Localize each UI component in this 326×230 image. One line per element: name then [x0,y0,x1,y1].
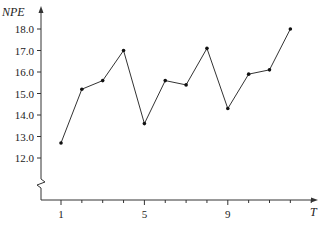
data-point [226,107,230,111]
y-axis-arrow-icon [39,6,44,13]
y-axis-title: NPE [1,5,25,19]
x-tick-label: 1 [58,208,64,220]
line-chart: NPE 12.013.014.015.016.017.018.0 T 159 [0,0,326,230]
x-tick-label: 9 [225,208,231,220]
y-tick-label: 18.0 [15,23,35,35]
data-point [268,68,272,72]
y-tick-label: 15.0 [15,88,35,100]
axis-break-icon [37,179,45,188]
x-axis: T 159 [41,198,318,221]
data-point [80,87,84,91]
y-tick-label: 14.0 [15,109,35,121]
x-tick-label: 5 [142,208,148,220]
y-tick-label: 16.0 [15,66,35,78]
y-tick-label: 12.0 [15,152,35,164]
y-tick-label: 13.0 [15,131,35,143]
series-line [61,29,290,143]
y-axis: NPE 12.013.014.015.016.017.018.0 [1,5,45,200]
data-point [59,141,63,145]
x-axis-title: T [310,205,318,219]
data-point [163,79,167,83]
y-ticks: 12.013.014.015.016.017.018.0 [15,23,41,164]
data-point [205,47,209,51]
data-point [122,49,126,53]
plot-area [59,27,292,145]
data-point [184,83,188,87]
data-point [289,27,293,31]
x-ticks: 159 [58,200,311,220]
data-point [101,79,105,83]
x-axis-arrow-icon [311,198,318,203]
y-tick-label: 17.0 [15,45,35,57]
data-point [143,122,147,126]
data-point [247,72,251,76]
